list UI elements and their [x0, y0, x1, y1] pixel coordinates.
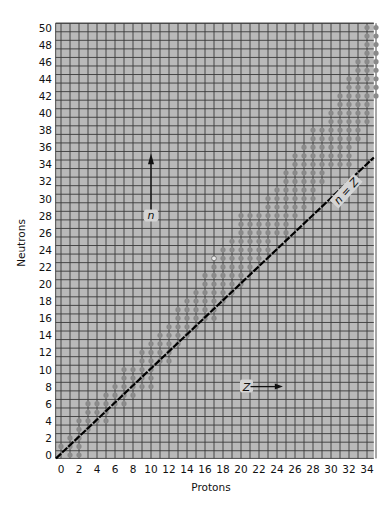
- svg-text:18: 18: [216, 463, 229, 475]
- svg-text:20: 20: [234, 463, 247, 475]
- y-axis-ticks: 0246810121416182022242628303234363840424…: [39, 22, 53, 462]
- svg-text:10: 10: [144, 463, 157, 475]
- svg-text:12: 12: [162, 463, 175, 475]
- svg-text:24: 24: [39, 244, 53, 256]
- svg-text:32: 32: [39, 175, 52, 187]
- svg-text:30: 30: [324, 463, 337, 475]
- svg-text:28: 28: [39, 210, 52, 222]
- svg-text:44: 44: [39, 73, 53, 85]
- svg-text:0: 0: [45, 449, 52, 461]
- svg-text:8: 8: [45, 381, 52, 393]
- svg-text:14: 14: [39, 329, 53, 341]
- svg-text:36: 36: [39, 141, 53, 153]
- svg-text:16: 16: [39, 312, 53, 324]
- svg-text:48: 48: [39, 39, 52, 51]
- svg-text:34: 34: [360, 463, 374, 475]
- svg-text:50: 50: [39, 22, 52, 34]
- x-axis-label: Protons: [191, 481, 230, 493]
- svg-text:30: 30: [39, 193, 52, 205]
- svg-text:0: 0: [58, 463, 65, 475]
- svg-text:24: 24: [270, 463, 284, 475]
- svg-text:46: 46: [39, 56, 53, 68]
- svg-text:26: 26: [288, 463, 302, 475]
- svg-text:4: 4: [45, 415, 52, 427]
- svg-text:6: 6: [112, 463, 119, 475]
- svg-text:4: 4: [94, 463, 101, 475]
- nuclide-chart: 0246810121416182022242628303234363840424…: [0, 0, 387, 510]
- svg-text:40: 40: [39, 107, 52, 119]
- svg-text:2: 2: [45, 432, 52, 444]
- plot-area: [56, 23, 374, 458]
- svg-text:32: 32: [342, 463, 355, 475]
- svg-text:42: 42: [39, 90, 52, 102]
- svg-text:18: 18: [39, 295, 52, 307]
- svg-text:Z: Z: [242, 381, 251, 394]
- svg-text:28: 28: [306, 463, 319, 475]
- svg-text:n: n: [148, 209, 155, 222]
- y-axis-label: Neutrons: [15, 219, 27, 267]
- svg-text:38: 38: [39, 124, 52, 136]
- svg-text:6: 6: [45, 398, 52, 410]
- svg-text:16: 16: [198, 463, 212, 475]
- svg-text:12: 12: [39, 346, 52, 358]
- svg-text:22: 22: [252, 463, 265, 475]
- svg-text:8: 8: [130, 463, 137, 475]
- svg-text:26: 26: [39, 227, 53, 239]
- svg-text:10: 10: [39, 364, 52, 376]
- svg-text:34: 34: [39, 158, 53, 170]
- x-axis-ticks: 0246810121416182022242628303234: [58, 463, 374, 475]
- svg-text:2: 2: [76, 463, 83, 475]
- svg-text:14: 14: [180, 463, 194, 475]
- svg-text:20: 20: [39, 278, 52, 290]
- svg-text:22: 22: [39, 261, 52, 273]
